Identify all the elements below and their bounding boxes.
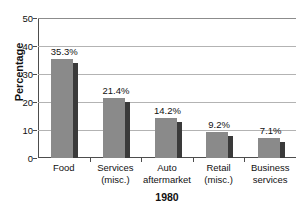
- x-axis-tick-mark: [141, 158, 142, 162]
- bar-value-label: 14.2%: [146, 105, 190, 116]
- bar-value-label: 21.4%: [94, 85, 138, 96]
- bar-chart-figure: Percentage 01020304050 35.3%21.4%14.2%9.…: [0, 0, 305, 210]
- x-axis-label-line2: (misc.): [193, 174, 245, 186]
- x-axis-category-label: Food: [38, 162, 90, 174]
- x-axis-label-line1: Business: [251, 162, 290, 173]
- y-axis-tick-label: 0: [3, 153, 33, 164]
- y-axis-tick-label: 10: [3, 125, 33, 136]
- plot-area: 35.3%21.4%14.2%9.2%7.1%: [38, 18, 296, 158]
- bar-group[interactable]: 7.1%: [258, 18, 285, 158]
- x-axis-category-label: Businessservices: [244, 162, 296, 185]
- y-axis-tick-mark: [33, 18, 37, 19]
- bar-shadow: [73, 63, 78, 158]
- bar-value-label: 35.3%: [42, 46, 86, 57]
- x-axis-label-line1: Services: [97, 162, 133, 173]
- x-axis-title: 1980: [38, 191, 296, 203]
- x-axis-label-line2: (misc.): [90, 174, 142, 186]
- x-axis-category-labels: FoodServices(misc.)AutoaftermarketRetail…: [38, 162, 296, 194]
- bar[interactable]: [258, 138, 280, 158]
- bars-layer: 35.3%21.4%14.2%9.2%7.1%: [38, 18, 296, 158]
- y-axis-tick-label: 20: [3, 97, 33, 108]
- x-axis-label-line1: Food: [53, 162, 75, 173]
- bar-shadow: [280, 142, 285, 158]
- bar[interactable]: [103, 98, 125, 158]
- y-axis-tick-mark: [33, 46, 37, 47]
- bar-value-label: 7.1%: [249, 125, 293, 136]
- x-axis-label-line1: Retail: [206, 162, 230, 173]
- x-axis-tick-mark: [193, 158, 194, 162]
- bar-group[interactable]: 9.2%: [206, 18, 233, 158]
- bar-group[interactable]: 35.3%: [51, 18, 78, 158]
- bar[interactable]: [206, 132, 228, 158]
- bar[interactable]: [51, 59, 73, 158]
- y-axis-tick-label: 50: [3, 13, 33, 24]
- bar-shadow: [177, 122, 182, 158]
- bar-value-label: 9.2%: [197, 119, 241, 130]
- y-axis-tick-mark: [33, 130, 37, 131]
- x-axis-label-line2: aftermarket: [141, 174, 193, 186]
- bar-group[interactable]: 21.4%: [103, 18, 130, 158]
- x-axis-tick-mark: [90, 158, 91, 162]
- bar[interactable]: [155, 118, 177, 158]
- y-axis-tick-label: 40: [3, 41, 33, 52]
- bar-shadow: [125, 102, 130, 158]
- y-axis-tick-mark: [33, 74, 37, 75]
- bar-group[interactable]: 14.2%: [155, 18, 182, 158]
- y-axis-tick-labels: 01020304050: [0, 18, 33, 158]
- x-axis-tick-mark: [244, 158, 245, 162]
- bar-shadow: [228, 136, 233, 158]
- y-axis-tick-mark: [33, 158, 37, 159]
- y-axis-tick-label: 30: [3, 69, 33, 80]
- x-axis-label-line1: Auto: [157, 162, 177, 173]
- x-axis-category-label: Services(misc.): [90, 162, 142, 185]
- x-axis-label-line2: services: [244, 174, 296, 186]
- x-axis-category-label: Autoaftermarket: [141, 162, 193, 185]
- y-axis-tick-mark: [33, 102, 37, 103]
- x-axis-category-label: Retail(misc.): [193, 162, 245, 185]
